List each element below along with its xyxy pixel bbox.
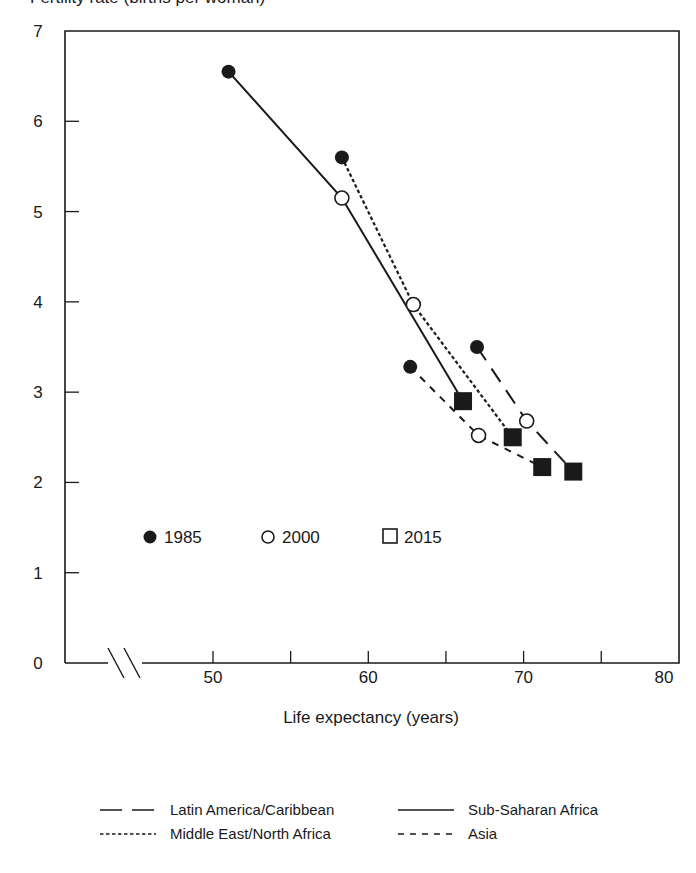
x-tick-label: 70 [514, 668, 533, 687]
data-point-2015 [533, 458, 551, 476]
square-icon [383, 529, 397, 543]
x-axis: 50607080 [204, 651, 674, 687]
y-axis: 01234567 [33, 22, 79, 673]
data-point-2000 [406, 298, 420, 312]
data-point-2015 [504, 428, 522, 446]
filled-circle-icon [144, 531, 157, 544]
y-tick-label: 3 [33, 383, 42, 402]
marker-legend-label: 2000 [282, 528, 320, 547]
plot-border [65, 31, 679, 663]
data-point-1985 [403, 360, 417, 374]
y-tick-label: 5 [33, 203, 42, 222]
marker-legend-label: 1985 [164, 528, 202, 547]
line-legend-label: Sub-Saharan Africa [468, 801, 599, 818]
data-point-2000 [520, 414, 534, 428]
plot-frame [65, 31, 679, 663]
x-axis-title: Life expectancy (years) [283, 708, 459, 727]
chart: 01234567 50607080 198520002015 Life expe… [0, 0, 696, 873]
series-line-middle-east-north-africa [342, 157, 513, 437]
x-tick-label: 60 [359, 668, 378, 687]
axis-break-icon [108, 648, 142, 678]
y-tick-label: 0 [33, 654, 42, 673]
data-point-2015 [454, 392, 472, 410]
marker-legend: 198520002015 [144, 528, 442, 547]
data-point-1985 [335, 150, 349, 164]
line-legend: Latin America/CaribbeanSub-Saharan Afric… [100, 801, 599, 842]
series-line-sub-saharan-africa [229, 72, 464, 402]
y-tick-label: 7 [33, 22, 42, 41]
series-lines [229, 72, 574, 472]
line-legend-label: Latin America/Caribbean [170, 801, 334, 818]
line-legend-label: Asia [468, 825, 498, 842]
y-tick-label: 6 [33, 112, 42, 131]
data-point-2015 [564, 463, 582, 481]
data-point-1985 [222, 65, 236, 79]
open-circle-icon [262, 531, 274, 543]
data-point-1985 [470, 340, 484, 354]
data-point-2000 [335, 191, 349, 205]
marker-legend-label: 2015 [404, 528, 442, 547]
y-tick-label: 4 [33, 293, 42, 312]
series-markers [222, 65, 583, 481]
y-tick-label: 1 [33, 564, 42, 583]
y-tick-label: 2 [33, 473, 42, 492]
x-tick-label: 80 [655, 668, 674, 687]
data-point-2000 [472, 428, 486, 442]
x-tick-label: 50 [204, 668, 223, 687]
line-legend-label: Middle East/North Africa [170, 825, 332, 842]
